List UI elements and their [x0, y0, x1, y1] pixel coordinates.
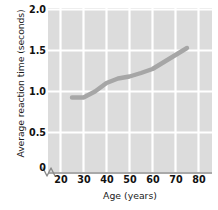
x-tick-label: 80	[184, 174, 214, 185]
y-axis-title: Average reaction time (seconds)	[15, 4, 26, 164]
y-tick-label: 0	[20, 162, 46, 173]
x-axis-title: Age (years)	[48, 190, 212, 201]
x-axis-ticks: 20 30 40 50 60 70 80	[0, 174, 218, 190]
chart-figure: 2.0 1.5 1.0 0.5 0 20 30 40 50 60 70 80 A…	[0, 0, 218, 210]
